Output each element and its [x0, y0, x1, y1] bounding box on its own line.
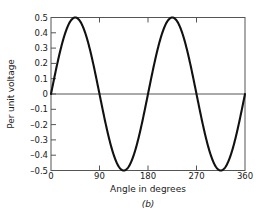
y-tick-label: –0.4 [20, 151, 48, 160]
x-tick-label: 90 [94, 172, 105, 181]
y-axis-tick-labels: 0.5 0.4 0.3 0.2 0.1 0 –0.1 –0.2 –0.3 –0.… [18, 0, 48, 218]
y-tick-label: –0.2 [20, 121, 48, 130]
figure-caption: (b) [51, 199, 245, 209]
y-axis-title-text: Per unit voltage [6, 59, 16, 129]
y-tick-label: –0.5 [20, 167, 48, 176]
x-tick-label: 0 [48, 172, 53, 181]
y-tick-label: –0.3 [20, 136, 48, 145]
x-axis-title: Angle in degrees [51, 184, 245, 194]
y-tick-label: 0.2 [20, 59, 48, 68]
y-tick-label: 0.5 [20, 14, 48, 23]
y-tick-label: 0 [20, 90, 48, 99]
x-tick-label: 360 [237, 172, 253, 181]
y-tick-label: 0.3 [20, 44, 48, 53]
y-tick-label: 0.4 [20, 29, 48, 38]
y-tick-label: –0.1 [20, 105, 48, 114]
x-tick-label: 180 [140, 172, 156, 181]
y-tick-label: 0.1 [20, 75, 48, 84]
x-tick-label: 270 [188, 172, 204, 181]
figure-container: Per unit voltage 0.5 0.4 0.3 0.2 0.1 0 –… [0, 0, 266, 218]
